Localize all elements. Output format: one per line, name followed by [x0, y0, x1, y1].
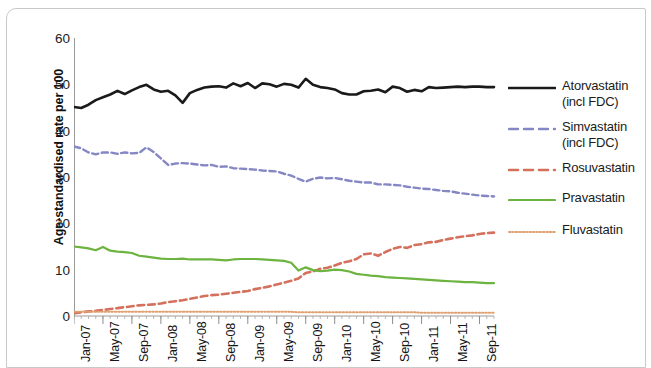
y-tick-10: 10: [40, 262, 70, 277]
y-tick-30: 30: [40, 170, 70, 185]
x-tick-label: Sep-11: [485, 324, 499, 362]
chart-legend: Atorvastatin(incl FDC)Simvastatin(incl F…: [508, 78, 648, 240]
legend-swatch-rosuvastatin-icon: [508, 162, 556, 178]
x-tick-label: Sep-08: [224, 323, 238, 362]
series-line-atorvastatin: [74, 79, 494, 108]
legend-swatch-simvastatin-icon: [508, 121, 556, 137]
legend-item-pravastatin[interactable]: Pravastatin: [508, 190, 648, 208]
y-tick-60: 60: [40, 31, 70, 46]
series-line-simvastatin: [74, 146, 494, 196]
legend-swatch-pravastatin-icon: [508, 192, 556, 208]
legend-label: Rosuvastatin: [562, 160, 635, 176]
x-tick-label: Sep-07: [137, 323, 151, 362]
x-tick-label: May-10: [369, 322, 383, 362]
x-axis-tick-labels: Jan-07May-07Sep-07Jan-08May-08Sep-08Jan-…: [74, 318, 494, 366]
legend-item-fluvastatin[interactable]: Fluvastatin: [508, 222, 648, 240]
legend-sublabel: (incl FDC): [562, 135, 627, 151]
x-tick-label: May-08: [195, 322, 209, 362]
x-tick-label: May-07: [108, 322, 122, 362]
legend-label: Simvastatin: [562, 119, 627, 135]
y-tick-0: 0: [40, 309, 70, 324]
legend-swatch-fluvastatin-icon: [508, 224, 556, 240]
y-tick-40: 40: [40, 123, 70, 138]
legend-sublabel: (incl FDC): [562, 94, 628, 110]
y-tick-50: 50: [40, 77, 70, 92]
legend-item-rosuvastatin[interactable]: Rosuvastatin: [508, 160, 648, 178]
x-tick-label: Jan-11: [427, 326, 441, 362]
x-tick-label: Jan-08: [166, 325, 180, 362]
x-tick-label: Jan-10: [340, 325, 354, 362]
series-line-pravastatin: [74, 247, 494, 284]
chart-canvas: [74, 38, 496, 330]
x-tick-label: May-09: [282, 322, 296, 362]
y-axis: Age-standardised rate per 100 0102030405…: [38, 0, 70, 366]
x-tick-label: May-11: [456, 322, 470, 362]
legend-label: Pravastatin: [562, 190, 625, 206]
x-tick-label: Sep-10: [398, 323, 412, 362]
y-tick-20: 20: [40, 216, 70, 231]
series-line-fluvastatin: [74, 312, 494, 313]
legend-item-simvastatin[interactable]: Simvastatin(incl FDC): [508, 119, 648, 150]
legend-label: Atorvastatin: [562, 78, 628, 94]
x-tick-label: Jan-09: [253, 325, 267, 362]
legend-item-atorvastatin[interactable]: Atorvastatin(incl FDC): [508, 78, 648, 109]
legend-swatch-atorvastatin-icon: [508, 80, 556, 96]
legend-label: Fluvastatin: [562, 222, 623, 238]
series-line-rosuvastatin: [74, 233, 494, 314]
plot-area: [74, 38, 494, 316]
x-tick-label: Jan-07: [79, 325, 93, 362]
x-tick-label: Sep-09: [311, 323, 325, 362]
